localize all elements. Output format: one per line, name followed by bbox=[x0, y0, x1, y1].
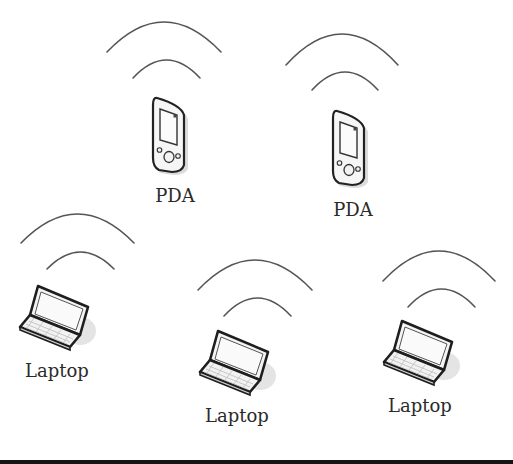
signal-arc-inner-laptop-3 bbox=[408, 289, 475, 307]
signal-arc-inner-laptop-1 bbox=[47, 252, 114, 269]
signal-arc-outer-laptop-3 bbox=[383, 251, 495, 281]
signal-arc-outer-laptop-1 bbox=[21, 214, 134, 243]
bottom-rule bbox=[0, 460, 513, 464]
signal-arc-outer-pda-1 bbox=[107, 22, 221, 52]
laptop-icon bbox=[200, 331, 276, 395]
laptop-icon bbox=[384, 321, 460, 385]
signal-arcs bbox=[21, 22, 495, 316]
signal-arc-inner-pda-1 bbox=[133, 60, 200, 78]
pda-icon bbox=[153, 98, 188, 175]
label-laptop-3: Laptop bbox=[388, 397, 452, 415]
laptop-icon bbox=[20, 286, 96, 350]
signal-arc-inner-pda-2 bbox=[312, 72, 378, 90]
signal-arc-inner-laptop-2 bbox=[224, 298, 291, 316]
label-laptop-2: Laptop bbox=[205, 407, 269, 425]
pda-icon bbox=[333, 111, 368, 188]
label-pda-1: PDA bbox=[155, 187, 195, 205]
devices bbox=[20, 98, 460, 395]
signal-arc-outer-pda-2 bbox=[286, 34, 398, 65]
label-pda-2: PDA bbox=[333, 201, 373, 219]
label-laptop-1: Laptop bbox=[25, 362, 89, 380]
signal-arc-outer-laptop-2 bbox=[198, 260, 312, 290]
